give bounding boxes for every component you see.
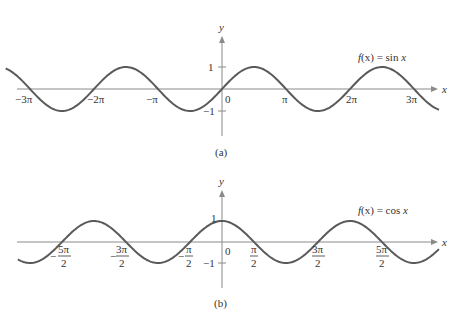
x-axis-arrow-icon [431,239,438,245]
tick-label-2pi: 2π [346,93,358,105]
x-axis-label: x [441,83,447,95]
tick-label-pi-2: π 2 [250,243,258,269]
svg-text:π: π [186,243,192,255]
svg-text:π: π [251,243,257,255]
y-tick-label-neg: −1 [203,257,215,269]
origin-label: 0 [225,245,231,257]
svg-text:2: 2 [119,257,125,269]
panel-caption-b: (b) [214,297,227,310]
tick-label-3pi: 3π [406,93,418,105]
svg-text:5π: 5π [58,243,70,255]
function-label: f(x) = cos x [358,204,408,217]
panel-caption-a: (a) [215,146,228,159]
panel-b-cosine: y x 1 −1 0 − 5π 2 − 3π 2 − π 2 π 2 [17,175,447,310]
svg-text:2: 2 [61,257,67,269]
tick-label-5pi-2: 5π 2 [376,243,389,269]
svg-text:2: 2 [379,257,385,269]
tick-label-neg-pi-2: − π 2 [178,243,193,269]
tick-label-neg-5pi-2: − 5π 2 [50,243,71,269]
svg-text:2: 2 [315,257,321,269]
function-label: f(x) = sin x [358,51,406,64]
y-axis-arrow-icon [219,190,225,197]
x-axis-label: x [441,236,447,248]
svg-text:5π: 5π [376,243,388,255]
y-axis-label: y [218,21,224,33]
tick-label-neg-pi: −π [146,93,158,105]
panel-a-sine: y x 1 −1 0 −3π −2π −π π 2π 3π f(x) = sin… [6,21,447,159]
y-axis-label: y [218,175,224,187]
y-axis-arrow-icon [219,36,225,43]
x-axis-arrow-icon [431,86,438,92]
svg-text:3π: 3π [116,243,128,255]
tick-label-neg-2pi: −2π [87,93,105,105]
trig-graphs-figure: y x 1 −1 0 −3π −2π −π π 2π 3π f(x) = sin… [0,0,463,324]
y-tick-label-neg: −1 [203,105,215,117]
y-tick-label-pos: 1 [211,212,217,224]
y-tick-label-pos: 1 [208,61,214,73]
svg-text:2: 2 [251,257,257,269]
origin-label: 0 [225,93,231,105]
svg-text:−: − [178,250,184,262]
tick-label-neg-3pi-2: − 3π 2 [110,243,129,269]
tick-label-pi: π [282,93,288,105]
tick-label-neg-3pi: −3π [15,93,33,105]
svg-text:2: 2 [186,257,192,269]
tick-label-3pi-2: 3π 2 [312,243,325,269]
svg-text:3π: 3π [312,243,324,255]
svg-text:−: − [50,250,56,262]
